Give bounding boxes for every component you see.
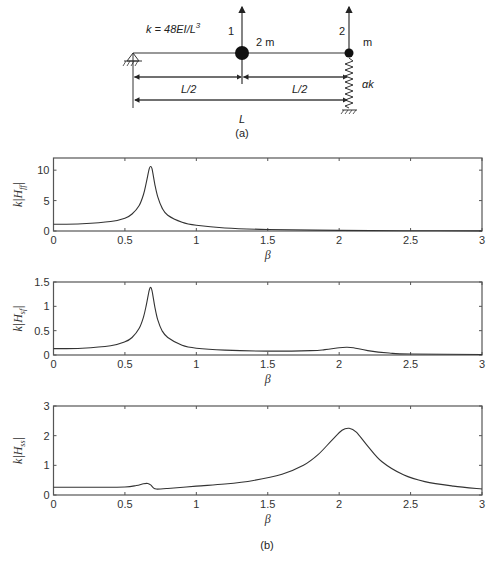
figure-caption: (b) <box>260 539 273 551</box>
x-tick-label: 1.5 <box>260 358 275 370</box>
x-axis-label: β <box>264 372 271 386</box>
y-tick-label: 0 <box>43 225 49 237</box>
y-tick-label: 3 <box>43 400 49 412</box>
mass-1-icon <box>235 46 249 60</box>
x-tick-label: 1.5 <box>260 234 275 246</box>
response-curve <box>54 287 483 354</box>
y-tick-label: 5 <box>43 195 49 207</box>
y-tick-label: 1 <box>43 459 49 471</box>
half-span-right-label: L/2 <box>292 83 307 95</box>
response-curve <box>54 428 483 489</box>
half-span-left-label: L/2 <box>181 83 196 95</box>
x-tick-label: 2 <box>336 498 342 510</box>
plot-frame <box>54 406 483 495</box>
y-tick-label: 10 <box>37 164 49 176</box>
x-tick-label: 1.5 <box>260 498 275 510</box>
dof1-label: 1 <box>228 25 234 37</box>
plot-frame <box>54 158 483 231</box>
chart-h-ss: 00.511.522.530123βk|Hss| <box>11 400 485 526</box>
span-label: L <box>239 113 245 125</box>
x-tick-label: 0.5 <box>117 234 132 246</box>
x-tick-label: 2.5 <box>403 498 418 510</box>
mass2-label: m <box>363 36 372 48</box>
spring-ground-icon <box>341 110 357 114</box>
x-axis-label: β <box>264 512 271 526</box>
spring-icon <box>345 58 353 108</box>
chart-h-ff: 00.511.522.530510βk|Hff| <box>11 158 485 262</box>
y-axis-label: k|Hff| <box>11 182 27 207</box>
x-tick-label: 1 <box>193 498 199 510</box>
x-tick-label: 2 <box>336 234 342 246</box>
spring-label: αk <box>362 78 374 90</box>
y-axis-label: k|Hss| <box>11 437 27 464</box>
x-tick-label: 0 <box>50 358 56 370</box>
x-tick-label: 3 <box>479 498 485 510</box>
mass1-label: 2 m <box>256 36 274 48</box>
diagram-caption: (a) <box>235 127 248 139</box>
x-tick-label: 3 <box>479 234 485 246</box>
x-tick-label: 0.5 <box>117 498 132 510</box>
x-axis-label: β <box>264 248 271 262</box>
x-tick-label: 0 <box>50 234 56 246</box>
x-tick-label: 2.5 <box>403 358 418 370</box>
y-tick-label: 2 <box>43 430 49 442</box>
chart-h-sf: 00.511.522.5300.511.5βk|Hsf| <box>11 276 485 386</box>
x-tick-label: 2.5 <box>403 234 418 246</box>
y-tick-label: 0 <box>43 489 49 501</box>
x-tick-label: 0.5 <box>117 358 132 370</box>
y-axis-label: k|Hsf| <box>11 306 27 332</box>
two-dof-beam-diagram: k = 48EI/L3 1 2 2 m m αk L/2 L/2 L (a) <box>0 0 502 145</box>
x-tick-label: 1 <box>193 234 199 246</box>
x-tick-label: 2 <box>336 358 342 370</box>
y-tick-label: 1.5 <box>34 276 49 288</box>
y-tick-label: 1 <box>43 300 49 312</box>
y-tick-label: 0 <box>43 349 49 361</box>
response-curve <box>54 166 483 230</box>
x-tick-label: 1 <box>193 358 199 370</box>
dof2-label: 2 <box>339 25 345 37</box>
x-tick-label: 3 <box>479 358 485 370</box>
mass-2-icon <box>345 49 354 58</box>
x-tick-label: 0 <box>50 498 56 510</box>
stiffness-formula: k = 48EI/L3 <box>146 21 201 35</box>
y-tick-label: 0.5 <box>34 325 49 337</box>
plot-frame <box>54 282 483 355</box>
